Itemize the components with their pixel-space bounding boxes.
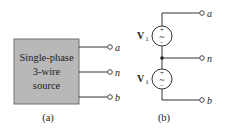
source-box-line-1: Single-phase <box>19 52 74 63</box>
terminal-n-label: n <box>115 67 120 78</box>
source-box-line-2: 3-wire <box>33 66 61 77</box>
figure-a: Single-phase 3-wire source a n b (a) <box>14 39 120 124</box>
source-2-minus: − <box>160 82 164 90</box>
terminal-n-label: n <box>207 53 212 64</box>
terminal-n-icon <box>108 70 113 75</box>
terminal-a-label: a <box>115 42 120 53</box>
terminal-n-icon <box>200 56 205 61</box>
caption-a: (a) <box>42 112 54 124</box>
terminal-b-label: b <box>207 95 212 106</box>
wire-b-b <box>162 89 200 100</box>
neutral-junction-icon <box>160 56 164 60</box>
wire-b-a <box>162 13 200 26</box>
source-2-label: V1 <box>137 73 149 86</box>
source-box-line-3: source <box>33 80 61 91</box>
figure-b: + ~ − V1 + ~ − V1 a n b (b) <box>137 8 212 125</box>
source-1-minus: − <box>160 39 164 47</box>
terminal-b-icon <box>108 95 113 100</box>
terminal-b-icon <box>200 98 205 103</box>
caption-b: (b) <box>158 112 171 124</box>
terminal-a-icon <box>108 45 113 50</box>
source-1-label: V1 <box>137 30 149 43</box>
terminal-a-icon <box>200 11 205 16</box>
terminal-b-label: b <box>115 92 120 103</box>
terminal-a-label: a <box>207 8 212 19</box>
single-phase-three-wire-diagram: Single-phase 3-wire source a n b (a) + ~… <box>0 0 227 129</box>
ac-source-1: + ~ − V1 <box>137 26 172 47</box>
ac-source-2: + ~ − V1 <box>137 69 172 90</box>
